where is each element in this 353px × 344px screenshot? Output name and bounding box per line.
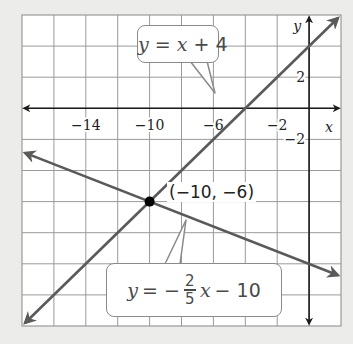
fraction: 25 bbox=[184, 273, 196, 307]
eq2-equals: = − bbox=[142, 279, 180, 301]
eq1-tail: + 4 bbox=[187, 33, 227, 55]
x-tick-label: −14 bbox=[71, 117, 101, 133]
y-tick-label: −2 bbox=[284, 131, 305, 147]
intersection-point bbox=[145, 197, 155, 207]
eq2-tail: − 10 bbox=[215, 279, 261, 301]
eq1-x: x bbox=[177, 33, 188, 55]
x-axis-label: x bbox=[325, 119, 333, 135]
eq1-y: y bbox=[138, 33, 149, 55]
fraction-numerator: 2 bbox=[185, 273, 195, 289]
fraction-denominator: 5 bbox=[185, 291, 195, 307]
callout-line2: y = −25x − 10 bbox=[106, 263, 282, 317]
y-tick-label: 2 bbox=[296, 69, 305, 85]
eq1-equals: = bbox=[149, 33, 177, 55]
callout-line1: y = x + 4 bbox=[137, 25, 219, 63]
eq2-x: x bbox=[200, 279, 211, 301]
intersection-label: (−10, −6) bbox=[167, 182, 256, 202]
eq2-y: y bbox=[127, 279, 138, 301]
points bbox=[145, 197, 155, 207]
y-axis-label: y bbox=[292, 18, 302, 34]
x-tick-label: −10 bbox=[135, 117, 165, 133]
